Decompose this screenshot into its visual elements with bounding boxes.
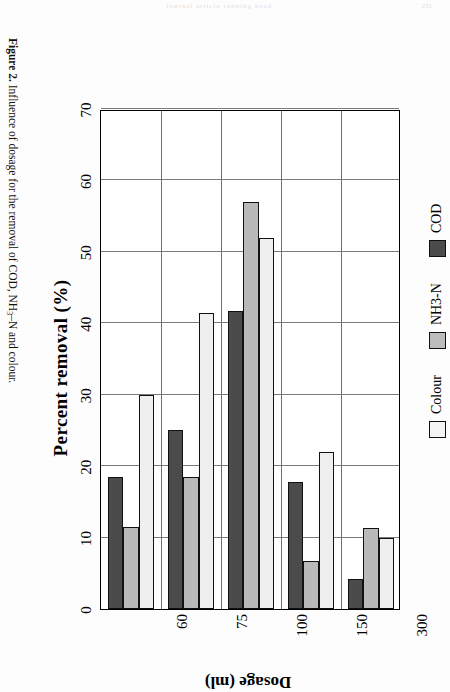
x-tick-label: 50: [78, 245, 95, 260]
bar-colour-100: [259, 238, 275, 609]
group-separator: [221, 111, 222, 609]
chart-legend: ColourNH3-NCOD: [420, 188, 450, 438]
page-running-header: Journal article running head: [0, 0, 438, 12]
figure-rotated-container: Percent removal (%) Dosage (ml) 01020304…: [48, 88, 413, 648]
figure-caption-label: Figure 2.: [7, 38, 19, 82]
bar-colour-60: [139, 395, 155, 609]
figure-caption: Figure 2. Influence of dosage for the re…: [2, 38, 24, 478]
x-axis-title: Percent removal (%): [50, 88, 72, 648]
x-tick-label: 30: [78, 388, 95, 403]
figure-caption-text-b: –N and colour.: [7, 315, 19, 383]
bar-cod-300: [348, 579, 364, 609]
y-tick-label-150: 150: [354, 614, 371, 648]
x-tick-label: 0: [78, 606, 95, 614]
x-tick-label: 70: [78, 103, 95, 118]
x-axis-ticks: 010203040506070: [78, 88, 98, 648]
plot-area: [100, 110, 400, 610]
figure-caption-text-a: Influence of dosage for the removal of C…: [7, 82, 19, 311]
y-axis-title: Dosage (ml): [148, 668, 348, 692]
legend-label: COD: [429, 204, 445, 234]
x-tick-label: 40: [78, 317, 95, 332]
bar-cod-75: [168, 430, 184, 609]
bar-colour-150: [319, 452, 335, 609]
y-tick-label-300: 300: [414, 614, 431, 648]
x-tick-label: 60: [78, 174, 95, 189]
page-number: 231: [422, 0, 433, 12]
nh3n-legend-item: NH3-N: [429, 283, 446, 349]
bar-nh3-n-75: [183, 477, 199, 609]
bar-cod-60: [108, 477, 124, 609]
bar-nh3-n-150: [303, 561, 319, 609]
legend-swatch-icon: [429, 421, 446, 438]
y-tick-label-100: 100: [294, 614, 311, 648]
bar-cod-150: [288, 482, 304, 609]
bar-chart: Percent removal (%) Dosage (ml) 01020304…: [48, 88, 413, 648]
legend-swatch-icon: [429, 240, 446, 257]
bar-colour-300: [379, 538, 395, 609]
y-axis-category-labels: 6075100150300: [100, 612, 400, 648]
legend-label: NH3-N: [429, 283, 445, 325]
legend-label: Colour: [429, 375, 445, 414]
bar-cod-100: [228, 311, 244, 609]
gridline: [101, 179, 399, 180]
x-tick-label: 10: [78, 531, 95, 546]
group-separator: [281, 111, 282, 609]
bar-nh3-n-60: [123, 527, 139, 609]
y-tick-label-60: 60: [174, 614, 191, 648]
bar-colour-75: [199, 313, 215, 609]
colour-legend-item: Colour: [429, 375, 446, 438]
group-separator: [161, 111, 162, 609]
bar-nh3-n-100: [243, 202, 259, 609]
bar-nh3-n-300: [363, 528, 379, 609]
group-separator: [341, 111, 342, 609]
x-tick-label: 20: [78, 460, 95, 475]
gridline: [101, 108, 399, 109]
y-tick-label-75: 75: [234, 614, 251, 648]
cod-legend-item: COD: [429, 204, 446, 258]
legend-swatch-icon: [429, 332, 446, 349]
